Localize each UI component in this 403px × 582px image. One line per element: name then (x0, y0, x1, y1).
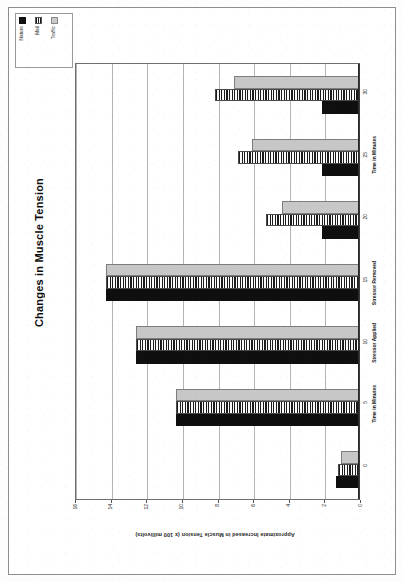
bar-traffic (234, 76, 359, 88)
value-axis-tick (182, 500, 183, 503)
legend-label-nature: Nature (20, 26, 25, 40)
bar-nature (336, 476, 359, 488)
category-axis-label: 20 (363, 214, 368, 220)
bar-mail (176, 401, 359, 413)
value-axis-tick-label: 6 (251, 504, 256, 507)
bar-group (76, 251, 359, 313)
value-axis-tick-label: 0 (358, 504, 363, 507)
value-axis-tick (75, 500, 76, 503)
value-axis-tick-label: 16 (73, 504, 78, 510)
scanned-page: Nature Mail Traffic Changes in Muscle Te… (0, 0, 403, 582)
value-axis-tick (324, 500, 325, 503)
value-axis-baseline (358, 64, 359, 499)
legend-label-mail: Mail (36, 26, 41, 35)
legend-item-traffic: Traffic (51, 17, 58, 39)
bar-nature (322, 101, 359, 113)
chart-title: Changes in Muscle Tension (33, 178, 45, 327)
bar-mail (266, 214, 359, 226)
bar-traffic (252, 139, 359, 151)
bar-traffic (341, 451, 359, 463)
value-axis-title: Approximate Increased in Muscle Tension … (95, 527, 335, 543)
value-axis-tick-label: 4 (286, 504, 291, 507)
bar-traffic (176, 389, 359, 401)
value-axis-tick-label: 12 (144, 504, 149, 510)
category-axis-label: 30 (363, 89, 368, 95)
bar-group (76, 314, 359, 376)
bar-group (76, 376, 359, 438)
bar-traffic (136, 326, 359, 338)
bar-nature (322, 164, 359, 176)
bar-mail (136, 339, 359, 351)
category-annotations: Time in MinutesStressor AppliedStressor … (372, 63, 388, 500)
value-axis-tick (218, 500, 219, 503)
legend-swatch-nature-icon (19, 17, 26, 24)
bar-group (76, 439, 359, 501)
chart-object-frame: Nature Mail Traffic Changes in Muscle Te… (8, 7, 396, 575)
category-axis-label: 10 (363, 339, 368, 345)
category-annotation: Stressor Removed (372, 261, 377, 305)
chart-legend: Nature Mail Traffic (15, 13, 73, 68)
category-axis-label: 0 (363, 464, 368, 467)
bar-mail (238, 151, 359, 163)
value-axis-tick (111, 500, 112, 503)
bar-traffic (106, 264, 359, 276)
bar-mail (338, 464, 359, 476)
category-annotation: Stressor Applied (372, 323, 377, 363)
plot-wrapper: 1614121086420 051015202530 Time in Minut… (65, 63, 373, 500)
category-axis-label: 5 (363, 401, 368, 404)
value-axis-tick (289, 500, 290, 503)
value-axis: 1614121086420 (75, 500, 360, 522)
value-axis-tick (360, 500, 361, 503)
value-axis-tick-label: 10 (179, 504, 184, 510)
value-axis-tick-label: 8 (215, 504, 220, 507)
legend-item-mail: Mail (35, 17, 42, 35)
category-annotation: Time in Minutes (372, 385, 377, 423)
value-axis-tick-label: 14 (108, 504, 113, 510)
bar-mail (215, 89, 359, 101)
category-annotation: Time in Minutes (372, 136, 377, 174)
category-axis-label: 25 (363, 152, 368, 158)
legend-item-nature: Nature (19, 17, 26, 40)
category-axis-label: 15 (363, 277, 368, 283)
bar-nature (176, 414, 359, 426)
bar-group (76, 189, 359, 251)
bar-nature (106, 289, 359, 301)
bar-group (76, 64, 359, 126)
value-axis-tick-label: 2 (322, 504, 327, 507)
bar-mail (106, 276, 359, 288)
bar-group (76, 126, 359, 188)
legend-swatch-mail-icon (35, 17, 42, 24)
legend-label-traffic: Traffic (52, 26, 57, 39)
bar-nature (136, 351, 359, 363)
legend-swatch-traffic-icon (51, 17, 58, 24)
plot-area (75, 63, 360, 500)
value-axis-tick (253, 500, 254, 503)
value-axis-tick (146, 500, 147, 503)
bar-nature (322, 226, 359, 238)
bar-traffic (282, 201, 359, 213)
